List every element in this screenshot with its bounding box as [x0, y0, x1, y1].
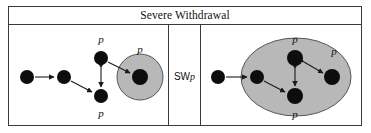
label-node-m3: p — [291, 33, 298, 45]
node-m2 — [250, 70, 264, 84]
label-node-n4: p — [97, 107, 104, 119]
operator-prefix: SW — [174, 71, 190, 82]
node-m1 — [211, 70, 225, 84]
label-node-m5: p — [330, 45, 337, 57]
figure-body-row: p p p SWp — [9, 25, 361, 125]
node-m4 — [287, 88, 303, 104]
label-node-n3: p — [97, 33, 104, 45]
page-title: Severe Withdrawal — [140, 10, 229, 22]
figure-root: Severe Withdrawal — [0, 0, 371, 133]
before-graph-diagram: p p p — [9, 25, 169, 125]
figure-title-row: Severe Withdrawal — [9, 7, 361, 25]
operator-cell: SWp — [169, 25, 201, 125]
node-n4 — [94, 89, 108, 103]
node-n2 — [57, 70, 71, 84]
operator-label: SWp — [174, 67, 195, 83]
node-n1 — [20, 70, 34, 84]
node-m3 — [287, 50, 303, 66]
left-diagram-cell: p p p — [9, 25, 169, 125]
node-m5 — [324, 69, 340, 85]
label-node-n5: p — [136, 43, 143, 55]
right-diagram-cell: p p p — [201, 25, 361, 125]
after-graph-diagram: p p p — [201, 25, 361, 125]
edge-n2-n4 — [71, 81, 92, 92]
node-n3 — [94, 51, 108, 65]
operator-variable: p — [190, 71, 195, 82]
label-node-m4: p — [291, 108, 298, 120]
node-n5 — [132, 69, 148, 85]
figure-frame: Severe Withdrawal — [8, 6, 362, 126]
